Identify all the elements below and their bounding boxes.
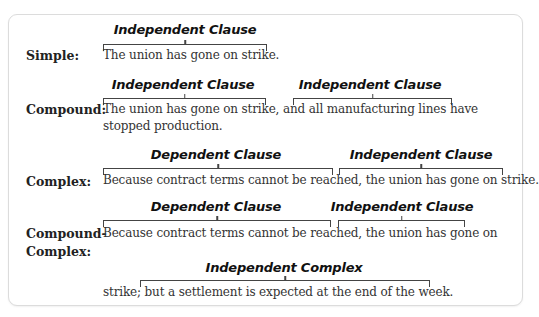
bracket-tick [184,94,186,98]
sentence-compound-line-2: stopped production. [103,117,223,135]
sentence-compound-line-1: The union has gone on strike, and all ma… [103,100,478,118]
sentence-simple: The union has gone on strike. [103,46,279,64]
clause-label-complex-independent: Independent Clause [350,147,493,163]
sentence-type-compound-complex-line-2: Complex: [26,243,91,261]
clause-label-compound-complex-dependent: Dependent Clause [151,199,281,215]
bracket-tick [184,40,186,44]
bracket-tick [217,164,219,168]
sentence-type-compound: Compound: [26,101,106,119]
clause-label-simple-independent: Independent Clause [114,22,257,38]
sentence-compound-complex-line-2: strike; but a settlement is expected at … [103,283,453,301]
bracket-tick [284,276,286,280]
clause-label-compound-independent-1: Independent Clause [112,77,255,93]
sentence-complex: Because contract terms cannot be reached… [103,171,539,189]
sentence-type-simple: Simple: [26,47,79,65]
bracket-tick [216,216,218,220]
clause-label-compound-complex-independent: Independent Clause [331,199,474,215]
sentence-type-complex: Complex: [26,173,91,191]
bracket-tick [420,164,422,168]
clause-label-compound-independent-2: Independent Clause [299,77,442,93]
sentence-compound-complex-line-1: Because contract terms cannot be reached… [103,224,497,242]
clause-label-complex-dependent: Dependent Clause [151,147,281,163]
sentence-type-compound-complex-line-1: Compound- [26,225,107,243]
bracket-tick [372,94,374,98]
clause-label-compound-complex-independent-2: Independent Complex [206,260,363,276]
bracket-tick [401,216,403,220]
